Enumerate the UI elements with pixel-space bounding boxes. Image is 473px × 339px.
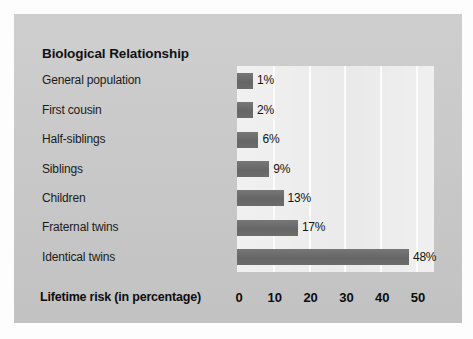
x-tick-20: 20 <box>303 290 317 305</box>
gridline-40 <box>380 66 382 272</box>
bar-value-label: 17% <box>302 220 325 234</box>
x-tick-10: 10 <box>268 290 282 305</box>
bar-value-label: 6% <box>262 132 279 146</box>
x-tick-30: 30 <box>339 290 353 305</box>
bar-value-label: 9% <box>273 162 290 176</box>
bar <box>237 132 258 148</box>
category-label: Siblings <box>42 162 83 176</box>
x-tick-0: 0 <box>235 290 242 305</box>
x-axis-title: Lifetime risk (in percentage) <box>40 290 201 304</box>
chart-panel: Biological Relationship General populati… <box>14 14 462 323</box>
chart-screenshot: Biological Relationship General populati… <box>0 0 473 339</box>
gridline-20 <box>309 66 311 272</box>
category-label: Identical twins <box>42 250 115 264</box>
category-label: First cousin <box>42 103 102 117</box>
gridline-50 <box>416 66 418 272</box>
bar-value-label: 1% <box>257 73 274 87</box>
bar <box>237 161 269 177</box>
bar-value-label: 48% <box>413 250 436 264</box>
x-tick-50: 50 <box>411 290 425 305</box>
chart-title: Biological Relationship <box>42 46 189 61</box>
bar <box>237 102 253 118</box>
bar <box>237 190 284 206</box>
category-label: General population <box>42 73 141 87</box>
bar <box>237 220 298 236</box>
bar <box>237 249 409 265</box>
bar-value-label: 2% <box>257 103 274 117</box>
x-tick-40: 40 <box>375 290 389 305</box>
bar <box>237 73 253 89</box>
category-label: Children <box>42 191 86 205</box>
category-label: Fraternal twins <box>42 220 118 234</box>
gridline-30 <box>344 66 346 272</box>
category-label: Half-siblings <box>42 132 105 146</box>
bar-value-label: 13% <box>288 191 311 205</box>
